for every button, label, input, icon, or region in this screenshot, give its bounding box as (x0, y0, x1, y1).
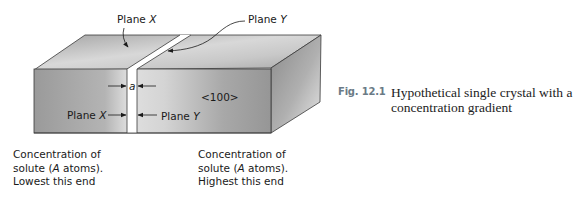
figure-number: Fig. 12.1 (338, 86, 386, 97)
slot-front (127, 69, 137, 133)
note-right-line1: Concentration of (198, 148, 288, 162)
note-left: Concentration of solute (A atoms). Lowes… (13, 148, 103, 189)
note-left-line3: Lowest this end (13, 175, 103, 189)
plane-y-front-label: Plane Y (161, 110, 201, 122)
spacing-label: a (129, 80, 135, 92)
note-right-line3: Highest this end (198, 175, 288, 189)
direction-label: <100> (201, 91, 239, 103)
note-left-line2: solute (A atoms). (13, 162, 103, 176)
figure-caption-text: Hypothetical single crystal with a conce… (391, 85, 578, 115)
plane-x-top-label: Plane X (117, 13, 157, 25)
plane-x-front-label: Plane X (67, 109, 107, 121)
note-right: Concentration of solute (A atoms). Highe… (198, 148, 288, 189)
note-right-line2: solute (A atoms). (198, 162, 288, 176)
note-left-line1: Concentration of (13, 148, 103, 162)
plane-y-top-label: Plane Y (248, 13, 288, 25)
